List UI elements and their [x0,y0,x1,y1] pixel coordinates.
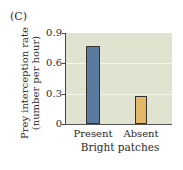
x-tick-label-absent: Absent [116,128,166,139]
y-axis-line [65,33,66,125]
y-tick-label: 0 [56,119,62,129]
bar-absent [135,96,147,124]
y-tick-label: 0.9 [46,28,62,38]
y-tick [62,63,65,64]
y-tick [62,124,65,125]
gridline [65,63,172,64]
plot-area [65,33,172,124]
gridline [65,94,172,95]
x-axis-line [65,124,172,125]
y-axis-label-line-2: (number per hour) [30,23,41,143]
y-tick [62,94,65,95]
y-axis-label: Prey interception rate (number per hour) [19,23,41,143]
y-axis-label-line-1: Prey interception rate [19,23,30,143]
bar-present [86,46,100,124]
x-tick-label-present: Present [68,128,118,139]
y-tick-label: 0.6 [46,58,62,68]
panel-label: (C) [10,10,27,23]
y-tick [62,33,65,34]
x-axis-label: Bright patches [68,141,172,153]
y-tick-label: 0.3 [46,89,62,99]
